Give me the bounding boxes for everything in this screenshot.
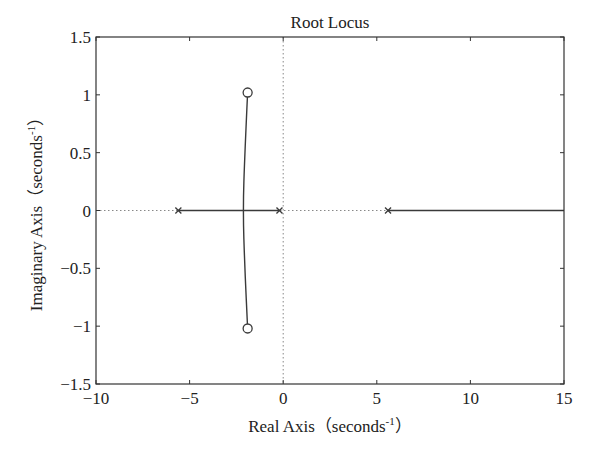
y-tick-label: 1 [83,86,92,105]
chart-title: Root Locus [291,13,370,32]
x-axis-ticks: −10−5051015 [83,37,573,408]
y-tick-label: 1.5 [70,28,91,47]
x-tick-label: 15 [556,389,573,408]
zero-marker-icon [243,324,252,333]
y-tick-label: 0 [83,202,92,221]
x-tick-label: 0 [279,389,288,408]
x-tick-label: 5 [373,389,382,408]
zero-marker-icon [243,88,252,97]
y-tick-label: −1 [73,317,91,336]
x-axis-label: Real Axis（seconds-1） [248,415,412,436]
y-tick-label: −1.5 [60,375,91,394]
y-tick-label: −0.5 [60,259,91,278]
y-axis-label: Imaginary Axis（seconds-1） [25,109,46,311]
y-tick-label: 0.5 [70,144,91,163]
x-tick-label: 10 [462,389,479,408]
x-tick-label: −5 [181,389,199,408]
plot-area [96,37,564,384]
root-locus-chart: Root Locus −10−5051015 −1.5−1−0.500.511.… [0,0,592,457]
